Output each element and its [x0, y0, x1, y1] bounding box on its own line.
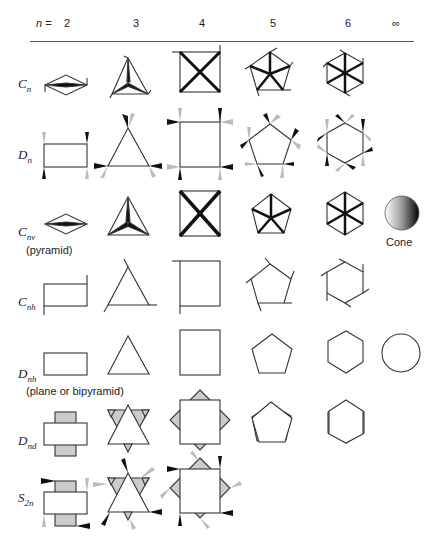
dnd-2 — [44, 412, 87, 456]
cnv-3 — [108, 197, 149, 235]
cone-icon — [385, 196, 419, 230]
cnv-2 — [45, 214, 87, 234]
dn-4 — [167, 108, 233, 180]
cnh-4 — [172, 261, 220, 314]
dnh-4 — [180, 330, 220, 375]
dnd-5 — [252, 402, 292, 442]
cn-5 — [245, 48, 293, 96]
cnv-4 — [180, 191, 220, 236]
dnh-6 — [328, 331, 363, 373]
dnh-2 — [44, 353, 87, 375]
dn-5 — [240, 113, 301, 178]
dnh-infinity-circle — [382, 334, 420, 372]
cn-4 — [172, 45, 220, 92]
cnv-6 — [327, 192, 363, 235]
s2n-2 — [41, 478, 90, 529]
s2n-3 — [93, 458, 162, 530]
cn-2 — [45, 75, 87, 95]
cnh-3 — [104, 259, 157, 312]
dn-6 — [317, 114, 373, 172]
dnd-3 — [108, 405, 149, 452]
point-group-diagram — [0, 0, 437, 547]
s2n-4 — [160, 451, 242, 529]
dnh-5 — [252, 334, 292, 373]
cnv-5 — [252, 194, 291, 233]
dnd-4 — [170, 390, 230, 450]
cn-6 — [323, 50, 363, 96]
dnh-3 — [108, 336, 149, 374]
dnd-6 — [328, 400, 364, 443]
cn-3 — [110, 56, 151, 98]
dn-2 — [42, 132, 89, 179]
cnh-5 — [246, 258, 294, 311]
cnh-6 — [321, 259, 369, 307]
cnh-2 — [44, 275, 87, 315]
dn-3 — [94, 113, 162, 178]
